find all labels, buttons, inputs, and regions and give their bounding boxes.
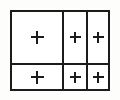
grid-cell-r1c3[interactable] bbox=[88, 12, 108, 63]
plus-icon bbox=[31, 71, 44, 84]
grid-cell-r2c2[interactable] bbox=[64, 65, 86, 89]
plus-icon bbox=[93, 72, 104, 83]
grid-cell-r1c2[interactable] bbox=[64, 12, 86, 63]
grid-frame bbox=[10, 10, 110, 91]
diagram-canvas bbox=[0, 0, 120, 100]
grid-cell-r2c1[interactable] bbox=[12, 65, 62, 89]
grid-cell-r2c3[interactable] bbox=[88, 65, 108, 89]
plus-icon bbox=[93, 32, 104, 43]
plus-icon bbox=[31, 31, 44, 44]
plus-icon bbox=[70, 32, 81, 43]
plus-icon bbox=[70, 72, 81, 83]
grid-cell-r1c1[interactable] bbox=[12, 12, 62, 63]
